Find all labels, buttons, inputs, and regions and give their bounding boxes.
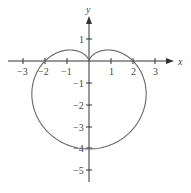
y-tick-label: −2 — [73, 100, 84, 111]
x-tick-label: 1 — [109, 66, 114, 77]
polar-plot: x y −3 −2 −1 1 2 3 1 −1 −2 −3 −4 −5 — [0, 0, 191, 193]
x-tick-label: −1 — [61, 66, 72, 77]
x-tick-label: 3 — [153, 66, 158, 77]
x-axis-label: x — [177, 56, 183, 67]
y-tick-label: 1 — [79, 34, 84, 45]
y-tick-label: −1 — [73, 78, 84, 89]
y-tick-label: −5 — [73, 165, 84, 176]
y-tick-label: −4 — [73, 143, 84, 154]
x-tick-label: 2 — [131, 66, 136, 77]
y-axis-arrow-icon — [86, 16, 92, 24]
plot-canvas: x y −3 −2 −1 1 2 3 1 −1 −2 −3 −4 −5 — [0, 0, 191, 193]
y-tick-label: −3 — [73, 122, 84, 133]
x-tick-label: −3 — [17, 66, 28, 77]
x-tick-label: −2 — [38, 66, 49, 77]
y-axis-label: y — [85, 4, 91, 15]
x-axis-arrow-icon — [166, 58, 174, 64]
